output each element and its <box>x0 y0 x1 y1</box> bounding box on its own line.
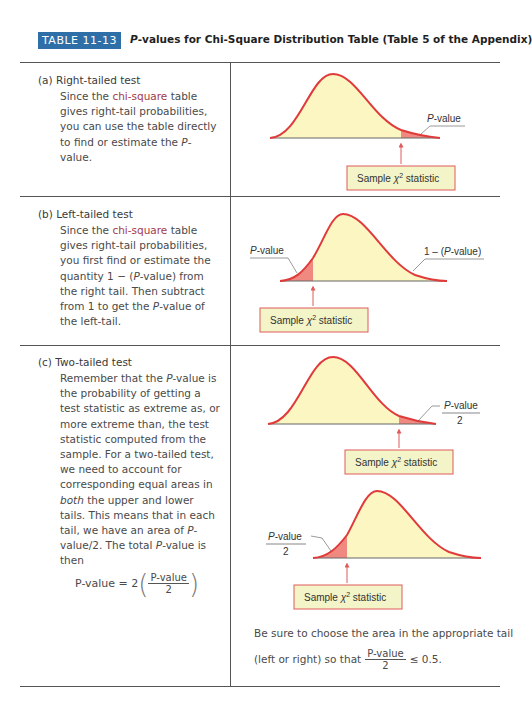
svg-text:P-value: P-value <box>268 531 302 542</box>
note-fraction: P-value 2 <box>365 648 405 671</box>
diagram-c-left-tail: P-value 2 Sample χ2 statistic <box>266 491 481 609</box>
svg-text:P-value: P-value <box>427 113 461 124</box>
svg-text:2: 2 <box>283 546 289 557</box>
diagram-c-right-tail: P-value 2 Sample χ2 statistic <box>268 357 480 474</box>
svg-text:Sample χ2 statistic: Sample χ2 statistic <box>355 456 437 468</box>
svg-text:Sample χ2 statistic: Sample χ2 statistic <box>357 172 439 184</box>
svg-text:2: 2 <box>457 415 463 426</box>
svg-text:1 – (P-value): 1 – (P-value) <box>424 246 481 257</box>
svg-text:Sample χ2 statistic: Sample χ2 statistic <box>304 591 386 603</box>
diagram-a-right-tailed: P-value Sample χ2 statistic <box>270 74 465 190</box>
svg-text:P-value: P-value <box>250 245 284 256</box>
svg-text:Sample χ2 statistic: Sample χ2 statistic <box>270 314 352 326</box>
svg-text:P-value: P-value <box>444 400 478 411</box>
tail-choice-note-line2: (left or right) so that P-value 2 ≤ 0.5. <box>254 648 442 671</box>
tail-choice-note-line1: Be sure to choose the area in the approp… <box>254 626 513 641</box>
diagram-b-left-tailed: P-value 1 – (P-value) Sample χ2 statisti… <box>250 214 484 332</box>
